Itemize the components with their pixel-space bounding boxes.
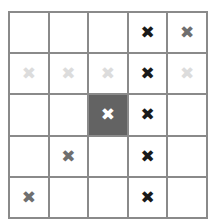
grid-row: ✖✖ (9, 136, 204, 177)
grid-cell-r2c2[interactable]: ✖ (49, 53, 89, 94)
grid-cell-r1c4[interactable]: ✖ (128, 12, 168, 53)
cross-icon: ✖ (129, 24, 167, 41)
cross-icon: ✖ (10, 65, 48, 82)
grid-cell-r4c5[interactable] (167, 136, 204, 177)
grid-cell-r2c4[interactable]: ✖ (128, 53, 168, 94)
cross-icon: ✖ (50, 148, 88, 165)
cross-icon: ✖ (89, 65, 127, 82)
grid-cell-r5c4[interactable]: ✖ (128, 177, 168, 218)
grid-cell-r4c4[interactable]: ✖ (128, 136, 168, 177)
grid-cell-r3c1[interactable] (9, 94, 49, 135)
cross-icon: ✖ (129, 189, 167, 206)
cross-icon: ✖ (129, 148, 167, 165)
grid-cell-r4c3[interactable] (88, 136, 128, 177)
grid-cell-r3c3[interactable]: ✖ (88, 94, 128, 135)
grid-cell-r1c1[interactable] (9, 12, 49, 53)
grid-cell-r1c5[interactable]: ✖ (167, 12, 204, 53)
grid-row: ✖✖ (9, 177, 204, 218)
grid-row: ✖✖✖✖✖ (9, 53, 204, 94)
grid-cell-r2c1[interactable]: ✖ (9, 53, 49, 94)
cross-icon: ✖ (168, 24, 204, 41)
cross-icon: ✖ (89, 106, 127, 123)
cross-icon: ✖ (50, 65, 88, 82)
grid-cell-r4c1[interactable] (9, 136, 49, 177)
grid-cell-r4c2[interactable]: ✖ (49, 136, 89, 177)
grid-cell-r5c5[interactable] (167, 177, 204, 218)
grid-cell-r3c5[interactable] (167, 94, 204, 135)
grid-row: ✖✖ (9, 94, 204, 135)
grid-cell-r5c3[interactable] (88, 177, 128, 218)
cross-icon: ✖ (129, 106, 167, 123)
grid-cell-r1c3[interactable] (88, 12, 128, 53)
cross-icon: ✖ (129, 65, 167, 82)
cross-mark-grid: ✖✖✖✖✖✖✖✖✖✖✖✖✖ (0, 0, 204, 218)
grid-cell-r2c5[interactable]: ✖ (167, 53, 204, 94)
grid-cell-r1c2[interactable] (49, 12, 89, 53)
cross-icon: ✖ (168, 65, 204, 82)
grid-body: ✖✖✖✖✖✖✖✖✖✖✖✖✖ (9, 12, 204, 218)
grid-table: ✖✖✖✖✖✖✖✖✖✖✖✖✖ (8, 11, 204, 218)
cross-icon: ✖ (10, 189, 48, 206)
grid-row: ✖✖ (9, 12, 204, 53)
grid-cell-r5c2[interactable] (49, 177, 89, 218)
grid-cell-r5c1[interactable]: ✖ (9, 177, 49, 218)
grid-cell-r3c4[interactable]: ✖ (128, 94, 168, 135)
grid-cell-r2c3[interactable]: ✖ (88, 53, 128, 94)
grid-cell-r3c2[interactable] (49, 94, 89, 135)
